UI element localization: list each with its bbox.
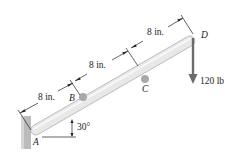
dim-label-2: 8 in. <box>89 60 106 70</box>
angle-label: 30° <box>77 122 91 132</box>
point-d-label: D <box>200 30 208 40</box>
pin-b <box>79 93 87 101</box>
beam <box>29 34 197 137</box>
dim-label-1: 8 in. <box>38 92 55 102</box>
point-a-label: A <box>32 137 39 147</box>
lever-diagram: 8 in. 8 in. 8 in. A B C D 120 lb 30° <box>0 0 236 155</box>
point-c-label: C <box>142 84 149 94</box>
point-b-label: B <box>69 93 75 103</box>
force-label: 120 lb <box>200 76 224 86</box>
pin-c <box>141 75 149 83</box>
dim-label-3: 8 in. <box>147 27 164 37</box>
